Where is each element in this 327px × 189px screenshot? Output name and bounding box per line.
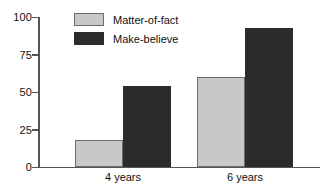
- legend-item-matter-of-fact: Matter-of-fact: [74, 11, 178, 28]
- y-axis-line: [38, 17, 40, 168]
- y-tick-mark-0: [32, 167, 38, 169]
- y-tick-label-50: 50: [6, 87, 32, 98]
- legend-label-matter-of-fact: Matter-of-fact: [113, 14, 178, 26]
- x-tick-label-6-years: 6 years: [197, 171, 293, 184]
- legend: Matter-of-fact Make-believe: [74, 11, 178, 49]
- legend-item-make-believe: Make-believe: [74, 30, 178, 47]
- y-tick-label-75: 75: [6, 50, 32, 61]
- y-tick-mark-50: [32, 92, 38, 94]
- y-tick-mark-100: [32, 17, 38, 19]
- y-tick-label-25: 25: [6, 125, 32, 136]
- dark-gray-swatch-icon: [74, 32, 104, 45]
- legend-label-make-believe: Make-believe: [113, 33, 178, 45]
- x-tick-label-4-years: 4 years: [75, 171, 171, 184]
- bar-make-believe-6-years: [245, 28, 293, 167]
- y-tick-label-0: 0: [6, 162, 32, 173]
- bar-matter-of-fact-4-years: [75, 140, 123, 167]
- light-gray-swatch-icon: [74, 13, 104, 26]
- bar-chart: 100 75 50 25 0 4 years 6 years Matter-of…: [0, 0, 327, 189]
- y-tick-mark-25: [32, 129, 38, 131]
- y-tick-label-100: 100: [6, 12, 32, 23]
- bar-matter-of-fact-6-years: [197, 77, 245, 167]
- y-tick-mark-75: [32, 54, 38, 56]
- bar-make-believe-4-years: [123, 86, 171, 167]
